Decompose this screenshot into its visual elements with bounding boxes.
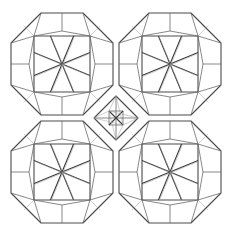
rosette-bottom-right xyxy=(119,121,221,223)
rosette-top-right xyxy=(119,13,221,115)
rosette-bottom-left xyxy=(11,121,113,223)
center-star-motif xyxy=(94,96,138,140)
geometric-pattern-diagram xyxy=(0,0,231,235)
rosette-top-left xyxy=(11,13,113,115)
